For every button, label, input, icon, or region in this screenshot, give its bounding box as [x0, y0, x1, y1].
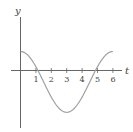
x-tick-label: 4: [80, 75, 85, 84]
x-tick-label: 3: [64, 75, 69, 84]
x-tick-label: 1: [33, 75, 38, 84]
x-tick-label: 6: [110, 75, 115, 84]
x-tick-label: 2: [49, 75, 54, 84]
x-axis-label: t: [125, 65, 130, 76]
chart: 123456 y t: [0, 0, 133, 132]
x-tick-label: 5: [95, 75, 100, 84]
y-axis-label: y: [14, 5, 21, 16]
